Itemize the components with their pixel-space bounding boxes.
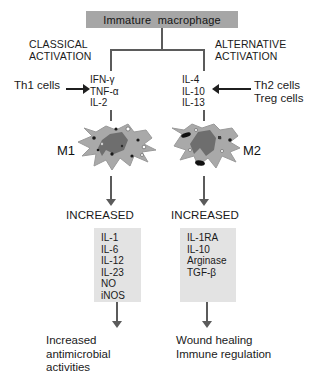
immature-macrophage-box: Immature macrophage: [86, 11, 238, 28]
th2-arrow-shaft: [218, 88, 251, 90]
m1-mediators-list: IL-1 IL-6 IL-12 IL-23 NO iNOS: [101, 232, 141, 301]
th1-cells-label: Th1 cells: [14, 79, 60, 92]
m2-to-increased-arrow-head-icon: [199, 199, 209, 206]
m1-macrophage-cell-icon: [72, 120, 158, 176]
m2-label: M2: [243, 143, 261, 158]
m2-mediators-list: IL-1RA IL-10 Arginase TGF-β: [187, 232, 236, 278]
m1-to-increased-arrow-shaft: [110, 176, 112, 201]
m2-increased-label: INCREASED: [171, 209, 239, 221]
m2-to-outcome-arrow-head-icon: [202, 321, 212, 328]
th2-treg-cells-label: Th2 cells Treg cells: [254, 79, 303, 105]
m2-to-increased-arrow-shaft: [203, 176, 205, 201]
m1-mediators-box: IL-1 IL-6 IL-12 IL-23 NO iNOS: [94, 228, 141, 302]
m1-increased-label: INCREASED: [66, 209, 134, 221]
m2-outcome-label: Wound healing Immune regulation: [176, 334, 271, 361]
m2-macrophage-cell-icon: [166, 120, 244, 176]
m1-outcome-label: Increased antimicrobial activities: [46, 334, 111, 375]
alternative-activation-label: ALTERNATIVE ACTIVATION: [215, 39, 286, 62]
m1-to-outcome-arrow-head-icon: [112, 321, 122, 328]
classical-branch-drop-line: [110, 49, 112, 71]
macrophage-polarization-diagram: Immature macrophage CLASSICAL ACTIVATION…: [0, 0, 327, 380]
m2-to-outcome-arrow-shaft: [206, 302, 208, 323]
m1-to-increased-arrow-head-icon: [106, 199, 116, 206]
immature-macrophage-label: Immature macrophage: [103, 14, 221, 26]
header-stem-line: [161, 28, 163, 50]
m2-mediators-box: IL-1RA IL-10 Arginase TGF-β: [180, 228, 236, 302]
classical-activation-label: CLASSICAL ACTIVATION: [29, 39, 91, 62]
alternative-branch-drop-line: [203, 49, 205, 71]
m1-label: M1: [57, 143, 75, 158]
th1-arrow-head-icon: [83, 84, 90, 94]
classical-cytokines-list: IFN-γ TNF-α IL-2: [90, 74, 119, 109]
th1-arrow-shaft: [66, 88, 84, 90]
branch-crossbar-line: [110, 49, 205, 51]
m1-to-outcome-arrow-shaft: [116, 302, 118, 323]
alternative-cytokines-list: IL-4 IL-10 IL-13: [182, 74, 205, 109]
